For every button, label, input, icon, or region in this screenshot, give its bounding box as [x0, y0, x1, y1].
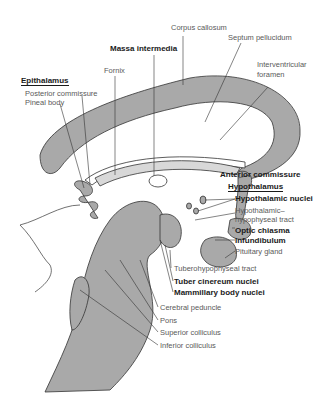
label-cerebral-peduncle: Cerebral peduncle	[160, 303, 221, 312]
label-superior-colliculus: Superior colliculus	[160, 328, 221, 337]
label-corpus-callosum: Corpus callosum	[171, 23, 227, 32]
label-hypothalamic-tract-2: hypophyseal tract	[235, 215, 294, 224]
label-tuber-cinereum-nuclei: Tuber cinereum nuclei	[174, 277, 259, 286]
label-epithalamus: Epithalamus	[21, 76, 69, 86]
label-septum-pellucidum: Septum pellucidum	[228, 33, 292, 42]
pituitary-shape	[201, 237, 237, 267]
label-pineal-body: Pineal body	[25, 98, 64, 107]
label-interventricular-foramen-2: foramen	[257, 70, 285, 79]
label-pons: Pons	[160, 316, 177, 325]
label-anterior-commissure: Anterior commissure	[220, 170, 300, 179]
massa-intermedia-shape	[149, 175, 167, 187]
hypothalamic-nucleus-3	[187, 203, 192, 209]
label-hypothalamus: Hypothalamus	[228, 182, 283, 192]
label-massa-intermedia: Massa intermedia	[110, 44, 177, 53]
label-infundibulum: Infundibulum	[235, 236, 286, 245]
label-mammillary-body-nuclei: Mammillary body nuclei	[174, 288, 265, 297]
pineal-shape	[75, 181, 98, 219]
label-inferior-colliculus: Inferior colliculus	[160, 341, 216, 350]
label-posterior-commissure: Posterior commissure	[25, 89, 98, 98]
brainstem-shape	[45, 201, 165, 392]
label-hypothalamic-tract-1: Hypothalamic–	[235, 206, 285, 215]
label-fornix: Fornix	[104, 66, 125, 75]
label-tuberohypophyseal-tract: Tuberohypophyseal tract	[174, 264, 256, 273]
hypothalamus-shape	[160, 214, 181, 247]
label-interventricular-foramen-1: Interventricular	[257, 60, 307, 69]
label-optic-chiasma: Optic chiasma	[235, 226, 290, 235]
label-hypothalamic-nuclei: Hypothalamic nuclei	[235, 194, 313, 203]
label-pituitary-gland: Pituitary gland	[235, 247, 283, 256]
hypothalamic-nucleus-2	[194, 208, 199, 214]
